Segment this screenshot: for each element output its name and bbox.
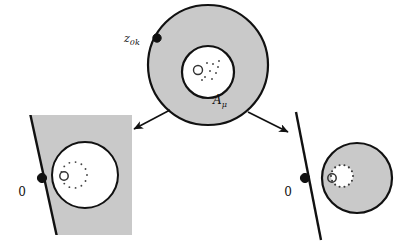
- dotted-boundary-dot: [80, 163, 82, 165]
- label-z0k: z0k: [123, 32, 140, 47]
- small-circle-icon: [60, 172, 68, 180]
- puncture-dot: [218, 60, 220, 62]
- dotted-boundary-dot: [334, 184, 336, 186]
- dotted-boundary-dot: [351, 170, 353, 172]
- puncture-dot: [215, 72, 217, 74]
- dotted-boundary-dot: [343, 164, 345, 166]
- dotted-boundary-dot: [331, 170, 333, 172]
- puncture-dot: [212, 63, 214, 65]
- puncture-dot: [206, 62, 208, 64]
- puncture-dot: [201, 79, 203, 81]
- dotted-boundary-dot: [75, 161, 77, 163]
- dotted-boundary-dot: [334, 166, 336, 168]
- dotted-boundary-dot: [80, 185, 82, 187]
- dotted-boundary-dot: [63, 183, 65, 185]
- right-panel-hole: [331, 165, 353, 187]
- dotted-boundary-dot: [68, 162, 70, 164]
- marked-point-zero-left: [37, 173, 46, 182]
- dotted-boundary-dot: [351, 180, 353, 182]
- figure-canvas: z0k Aμ: [0, 0, 409, 250]
- puncture-dot: [211, 78, 213, 80]
- dotted-boundary-dot: [343, 186, 345, 188]
- arrow-to-left-panel: [134, 110, 170, 129]
- dotted-boundary-dot: [86, 174, 88, 176]
- marked-point-zero-right: [300, 173, 309, 182]
- annulus-panel: z0k Aμ: [123, 5, 268, 125]
- figure-root: z0k Aμ: [0, 0, 409, 250]
- dotted-boundary-dot: [339, 186, 341, 188]
- annulus-inner-circle: [182, 46, 234, 98]
- dotted-boundary-dot: [85, 180, 87, 182]
- dotted-boundary-dot: [330, 175, 332, 177]
- label-zero-right: 0: [284, 185, 292, 199]
- puncture-dot: [217, 66, 219, 68]
- dotted-boundary-dot: [339, 164, 341, 166]
- left-degenerate-panel: 0: [14, 113, 132, 237]
- arrow-to-right-panel: [248, 112, 288, 132]
- dotted-boundary-dot: [63, 165, 65, 167]
- puncture-dot: [204, 76, 206, 78]
- dotted-boundary-dot: [352, 175, 354, 177]
- dotted-boundary-dot: [75, 187, 77, 189]
- dotted-boundary-dot: [68, 186, 70, 188]
- dotted-boundary-dot: [348, 184, 350, 186]
- label-zero-left: 0: [18, 185, 26, 199]
- marked-point-z0k: [153, 34, 161, 42]
- dotted-boundary-dot: [85, 168, 87, 170]
- puncture-dot: [209, 70, 211, 72]
- right-degenerate-panel: 0: [284, 112, 392, 240]
- dotted-boundary-dot: [348, 166, 350, 168]
